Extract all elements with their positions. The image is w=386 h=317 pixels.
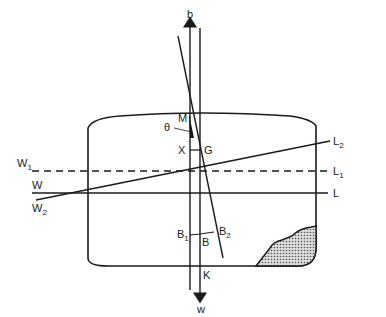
label-K: K: [203, 269, 211, 281]
label-B2: B2: [219, 225, 231, 240]
label-L2: L2: [333, 135, 344, 150]
label-w: w: [196, 303, 205, 315]
label-X: X: [178, 144, 186, 156]
label-L: L: [333, 187, 339, 199]
label-W: W: [32, 179, 43, 191]
label-W2: W2: [32, 202, 47, 217]
shifted-cargo: [256, 226, 316, 266]
label-G: G: [204, 144, 213, 156]
label-B: B: [202, 236, 209, 248]
label-theta: θ: [164, 121, 170, 133]
label-B1: B1: [177, 228, 189, 243]
label-b: b: [187, 8, 193, 20]
stability-diagram: b w M θ X G B K B1 B2 W1 W W2 L2 L1 L: [0, 0, 386, 317]
label-W1: W1: [17, 157, 32, 172]
label-M: M: [178, 112, 187, 124]
label-L1: L1: [333, 165, 344, 180]
buoyancy-shift: [190, 232, 214, 235]
